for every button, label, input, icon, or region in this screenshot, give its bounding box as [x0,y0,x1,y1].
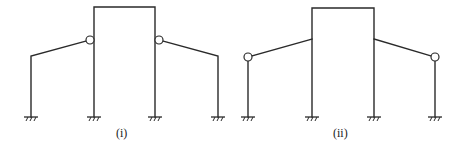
frame-ii-central-portal [312,8,374,117]
frame-ii-left-inclined-member [252,39,312,56]
frame-ii-fixed-support-icon [305,117,319,121]
frame-i-fixed-support-icon [148,117,162,121]
frame-ii-fixed-support-icon [428,117,442,121]
frame-i-left-outer-member [31,41,86,117]
frame-ii-right-inclined-member [374,39,431,56]
frame-ii-left-hinge-icon [244,53,252,61]
frame-i-caption: (i) [116,126,127,141]
frame-i [24,7,225,121]
frame-i-fixed-support-icon [87,117,101,121]
frame-i-right-hinge-icon [155,36,163,44]
frame-ii-fixed-support-icon [241,117,255,121]
frame-i-left-hinge-icon [86,36,94,44]
frame-ii [241,8,442,121]
frame-i-right-outer-member [163,41,218,117]
frame-i-central-portal [94,7,155,117]
frame-i-fixed-support-icon [24,117,38,121]
frame-ii-caption: (ii) [333,126,348,141]
structural-frames-canvas [0,0,462,147]
frame-ii-right-hinge-icon [431,53,439,61]
frame-i-fixed-support-icon [211,117,225,121]
frame-ii-fixed-support-icon [367,117,381,121]
